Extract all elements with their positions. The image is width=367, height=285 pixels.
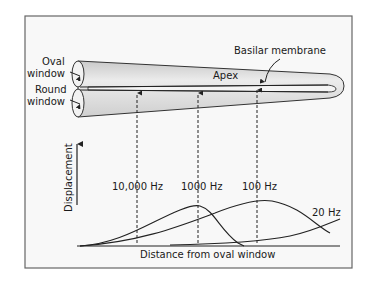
oval-window-label-2: window (27, 68, 65, 79)
apex-label: Apex (213, 70, 238, 81)
oval-window-label-1: Oval (42, 56, 65, 67)
round-window-label-1: Round (35, 84, 67, 95)
label-10000hz: 10,000 Hz (112, 181, 163, 192)
basilar-membrane-label: Basilar membrane (234, 45, 326, 56)
round-window-label-2: window (27, 96, 65, 107)
y-axis-label: Displacement (63, 143, 74, 212)
label-100hz: 100 Hz (242, 181, 277, 192)
cochlea-diagram: Oval window Round window Apex Basilar me… (0, 0, 367, 285)
label-1000hz: 1000 Hz (181, 181, 222, 192)
x-axis-label: Distance from oval window (140, 249, 275, 260)
label-20hz: 20 Hz (312, 207, 341, 218)
